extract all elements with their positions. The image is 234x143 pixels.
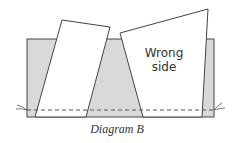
wrong-side-label-line1: Wrong [145, 46, 184, 60]
thread-tail-left-icon [16, 105, 27, 110]
diagram-b: Wrong side Diagram B [0, 0, 234, 143]
diagram-caption: Diagram B [89, 122, 144, 136]
wrong-side-label-line2: side [152, 60, 177, 74]
thread-tail-right-icon [214, 103, 225, 110]
